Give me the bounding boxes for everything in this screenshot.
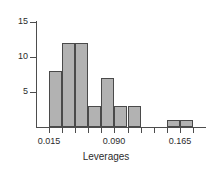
histogram-bar	[128, 106, 141, 127]
x-axis-tick	[167, 128, 168, 133]
x-axis-tick	[193, 128, 194, 133]
x-axis-tick-label: 0.165	[160, 136, 200, 146]
histogram-bar	[167, 120, 180, 127]
histogram-bar	[75, 43, 88, 127]
x-axis-tick	[49, 128, 50, 133]
y-axis-line	[36, 21, 37, 128]
histogram-chart: 51015 0.0150.0900.165 Leverages	[0, 0, 212, 170]
x-axis-tick	[88, 128, 89, 133]
y-axis-tick-label: 5	[4, 87, 28, 96]
x-axis-tick	[180, 128, 181, 133]
histogram-bar	[62, 43, 75, 127]
histogram-bar	[114, 106, 127, 127]
histogram-bar	[88, 106, 101, 127]
histogram-bar	[180, 120, 193, 127]
x-axis-tick-label: 0.090	[94, 136, 134, 146]
plot-area: 51015 0.0150.0900.165 Leverages	[0, 0, 212, 170]
histogram-bar	[49, 71, 62, 127]
y-axis-tick	[30, 57, 36, 58]
y-axis-tick	[30, 92, 36, 93]
x-axis-tick-label: 0.015	[29, 136, 69, 146]
y-axis-tick-label: 15	[4, 17, 28, 26]
x-axis-tick	[75, 128, 76, 133]
x-axis-tick	[101, 128, 102, 133]
y-axis-tick-label: 10	[4, 52, 28, 61]
x-axis-tick	[62, 128, 63, 133]
x-axis-tick	[154, 128, 155, 133]
x-axis-tick	[114, 128, 115, 133]
y-axis-tick	[30, 22, 36, 23]
histogram-bar	[101, 78, 114, 127]
x-axis-tick	[128, 128, 129, 133]
x-axis-title: Leverages	[0, 151, 212, 162]
x-axis-tick	[141, 128, 142, 133]
